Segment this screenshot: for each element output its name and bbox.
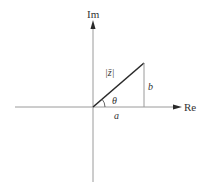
angle-arc <box>102 99 105 107</box>
modulus-label: |z̄| <box>105 67 114 78</box>
real-axis-arrow-icon <box>173 105 182 110</box>
real-axis-label: Re <box>184 101 196 113</box>
modulus-vector <box>93 63 144 107</box>
angle-label: θ <box>112 95 117 106</box>
complex-plane-diagram: Im Re |z̄| θ a b <box>0 0 209 190</box>
imaginary-part-label: b <box>148 81 153 92</box>
real-axis <box>15 105 182 110</box>
imaginary-axis <box>91 20 96 182</box>
real-part-label: a <box>114 110 119 121</box>
imaginary-axis-label: Im <box>87 8 100 20</box>
imaginary-axis-arrow-icon <box>91 20 96 29</box>
